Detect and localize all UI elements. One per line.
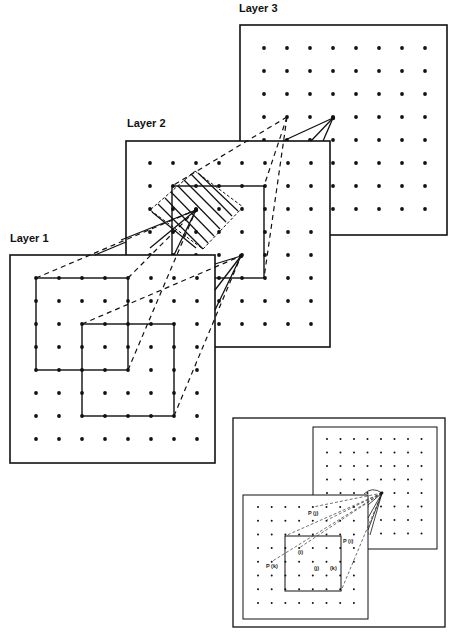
label-k: (k) (330, 565, 337, 571)
label-j: (j) (314, 565, 319, 571)
label-p-k: P (k) (266, 563, 278, 569)
label-p-i: P (i) (343, 538, 353, 544)
layered-receptive-field-diagram: P (j) P (i) P (k) (i) (j) (k) (0, 0, 457, 635)
label-p-j: P (j) (308, 510, 318, 516)
inset-diagram: P (j) P (i) P (k) (i) (j) (k) (233, 418, 445, 627)
label-i: (i) (298, 549, 303, 555)
